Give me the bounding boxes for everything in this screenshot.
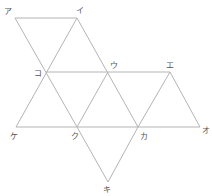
vertex-label-ki: キ bbox=[103, 185, 111, 194]
vertex-label-ka: カ bbox=[140, 132, 148, 141]
edge-e-o bbox=[170, 72, 200, 127]
vertex-label-e: エ bbox=[166, 61, 174, 70]
vertex-label-o: オ bbox=[202, 126, 210, 135]
vertex-label-ko: コ bbox=[34, 69, 42, 78]
vertex-label-a: ア bbox=[4, 7, 12, 16]
vertex-label-u: ウ bbox=[110, 61, 118, 70]
triangle-net-diagram: アイコウエケクカオキ bbox=[0, 0, 212, 196]
edges-group bbox=[15, 18, 200, 182]
vertex-label-i: イ bbox=[76, 6, 84, 15]
labels-group: アイコウエケクカオキ bbox=[4, 6, 210, 194]
vertex-label-ku: ク bbox=[71, 132, 79, 141]
edge-ku-ki bbox=[77, 127, 108, 182]
vertex-label-ke: ケ bbox=[10, 132, 18, 141]
edge-e-ka bbox=[138, 72, 170, 127]
edge-ka-ki bbox=[108, 127, 138, 182]
edge-u-ku bbox=[77, 72, 108, 127]
